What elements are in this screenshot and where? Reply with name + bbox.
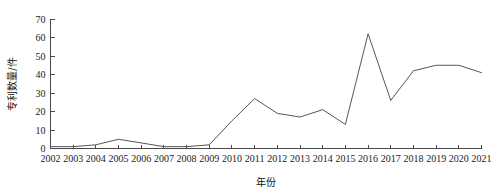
x-tick-label: 2009 bbox=[199, 153, 219, 164]
x-tick-label: 2017 bbox=[381, 153, 401, 164]
x-tick-label: 2005 bbox=[109, 153, 129, 164]
x-tick-label: 2008 bbox=[177, 153, 197, 164]
y-tick-label: 30 bbox=[36, 88, 46, 99]
y-tick-label: 50 bbox=[36, 51, 46, 62]
y-tick-label: 60 bbox=[36, 32, 46, 43]
series-line-patent-count bbox=[51, 34, 482, 147]
x-tick-label-group: 2002200320042005200620072008200920102011… bbox=[41, 153, 492, 164]
y-tick-label: 10 bbox=[36, 125, 46, 136]
x-tick-label: 2012 bbox=[267, 153, 287, 164]
x-tick-label: 2003 bbox=[63, 153, 83, 164]
x-tick-label: 2020 bbox=[449, 153, 469, 164]
x-tick-label: 2004 bbox=[86, 153, 106, 164]
x-tick-label: 2010 bbox=[222, 153, 242, 164]
x-tick-label: 2015 bbox=[335, 153, 355, 164]
x-tick-label: 2021 bbox=[472, 153, 492, 164]
x-axis-title: 年份 bbox=[256, 176, 276, 188]
y-tick-label-group: 010203040506070 bbox=[36, 14, 46, 155]
x-tick-label: 2014 bbox=[313, 153, 333, 164]
y-tick-group bbox=[51, 19, 55, 149]
x-tick-label: 2019 bbox=[426, 153, 446, 164]
y-tick-label: 70 bbox=[36, 14, 46, 25]
x-tick-group bbox=[51, 145, 482, 149]
x-tick-label: 2016 bbox=[358, 153, 378, 164]
x-tick-label: 2007 bbox=[154, 153, 174, 164]
x-tick-label: 2011 bbox=[245, 153, 265, 164]
x-tick-label: 2006 bbox=[131, 153, 151, 164]
x-tick-label: 2013 bbox=[290, 153, 310, 164]
chart-page: 010203040506070 200220032004200520062007… bbox=[0, 0, 498, 196]
y-axis-title: 专利数量/件 bbox=[6, 57, 18, 110]
x-tick-label: 2018 bbox=[403, 153, 423, 164]
y-tick-label: 40 bbox=[36, 69, 46, 80]
x-tick-label: 2002 bbox=[41, 153, 61, 164]
line-chart: 010203040506070 200220032004200520062007… bbox=[0, 0, 498, 196]
y-tick-label: 20 bbox=[36, 106, 46, 117]
